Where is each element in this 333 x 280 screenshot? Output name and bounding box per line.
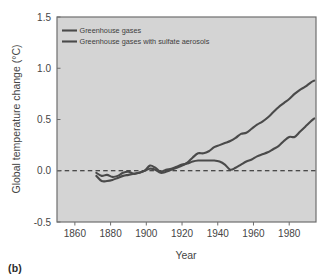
x-tick-label: 1980 (278, 228, 301, 239)
x-tick-label: 1960 (242, 228, 265, 239)
legend-item-greenhouse-gases-sulfate: Greenhouse gases with sulfate aerosols (62, 37, 210, 46)
legend-label-greenhouse-gases-sulfate: Greenhouse gases with sulfate aerosols (80, 37, 210, 46)
x-tick-label: 1900 (135, 228, 158, 239)
x-tick-label: 1880 (99, 228, 122, 239)
temperature-change-line-chart: 1860188019001920194019601980 -0.50.00.51… (0, 0, 333, 280)
plot-area-background (57, 17, 316, 222)
y-tick-label: -0.5 (34, 217, 52, 228)
x-tick-label: 1920 (171, 228, 194, 239)
x-axis-ticks: 1860188019001920194019601980 (64, 222, 301, 239)
y-axis-title: Global temperature change (°C) (10, 45, 22, 194)
y-tick-label: 1.5 (37, 12, 51, 23)
legend-label-greenhouse-gases: Greenhouse gases (80, 26, 142, 35)
x-tick-label: 1940 (207, 228, 230, 239)
y-tick-label: 0.5 (37, 114, 51, 125)
x-axis-title: Year (175, 249, 197, 261)
x-tick-label: 1860 (64, 228, 87, 239)
y-tick-label: 1.0 (37, 63, 51, 74)
panel-caption: (b) (8, 262, 22, 274)
figure-panel: 1860188019001920194019601980 -0.50.00.51… (0, 0, 333, 280)
y-tick-label: 0.0 (37, 165, 51, 176)
